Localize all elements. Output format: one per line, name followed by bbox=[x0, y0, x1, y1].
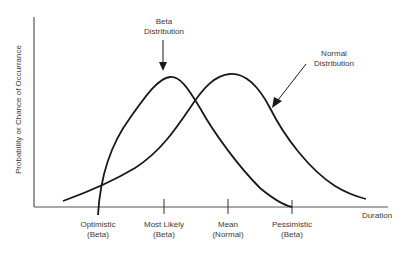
tick-label-pessimistic: Pessimistic (Beta) bbox=[265, 220, 319, 240]
tick-label-most-likely: Most Likely (Beta) bbox=[136, 220, 192, 240]
beta-annotation-line2: Distribution bbox=[143, 27, 185, 37]
tick-label-optimistic: Optimistic (Beta) bbox=[73, 220, 123, 240]
normal-curve bbox=[63, 74, 366, 201]
tick-label-mean: Mean (Normal) bbox=[203, 220, 253, 240]
normal-annotation-line2: Distribution bbox=[308, 59, 360, 69]
y-axis-label: Probability or Chance of Occurrance bbox=[14, 30, 23, 190]
normal-arrow-head bbox=[272, 97, 282, 108]
normal-annotation-line1: Normal bbox=[308, 49, 360, 59]
beta-annotation: Beta Distribution bbox=[143, 17, 185, 37]
normal-arrow-line bbox=[278, 64, 306, 100]
x-axis-label: Duration bbox=[355, 211, 399, 221]
distribution-diagram bbox=[0, 0, 412, 255]
beta-annotation-line1: Beta bbox=[143, 17, 185, 27]
beta-arrow-head bbox=[159, 62, 167, 71]
tick-label-line2: (Beta) bbox=[265, 230, 319, 240]
tick-label-line2: (Beta) bbox=[73, 230, 123, 240]
tick-label-line1: Mean bbox=[203, 220, 253, 230]
normal-annotation: Normal Distribution bbox=[308, 49, 360, 69]
tick-label-line2: (Normal) bbox=[203, 230, 253, 240]
tick-label-line1: Optimistic bbox=[73, 220, 123, 230]
tick-label-line1: Most Likely bbox=[136, 220, 192, 230]
tick-label-line2: (Beta) bbox=[136, 230, 192, 240]
tick-label-line1: Pessimistic bbox=[265, 220, 319, 230]
beta-curve bbox=[98, 77, 292, 215]
